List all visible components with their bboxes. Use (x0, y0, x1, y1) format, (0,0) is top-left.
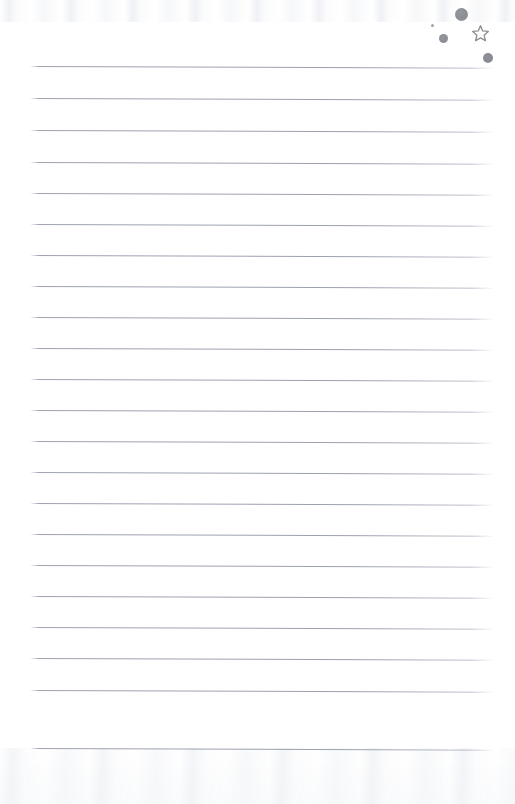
ruled-line (30, 379, 494, 382)
ruled-line (30, 162, 494, 165)
ruled-line (30, 596, 494, 599)
ruled-line (30, 658, 494, 661)
ruled-line (30, 98, 494, 101)
ruled-line (30, 66, 494, 69)
dot-large-icon (455, 8, 468, 21)
ruled-line (30, 193, 494, 196)
ruled-line (30, 224, 494, 227)
ruled-line (30, 317, 494, 320)
ruled-line (30, 534, 494, 537)
notebook-page (0, 0, 515, 804)
star-icon (472, 25, 489, 42)
paper-texture-bottom (0, 748, 515, 804)
dot-medium-icon (439, 34, 448, 43)
ruled-line (30, 130, 494, 133)
ruled-line (30, 286, 494, 289)
ruled-line (30, 255, 494, 258)
ruled-line (30, 410, 494, 413)
ruled-line (30, 441, 494, 444)
ruled-line (30, 472, 494, 475)
ruled-line (30, 565, 494, 568)
paper-texture-top (0, 0, 515, 22)
ruled-line (30, 690, 494, 693)
dot-tiny-icon (431, 24, 434, 27)
ruled-line (30, 627, 494, 630)
ruled-line (30, 503, 494, 506)
ruled-line (30, 748, 494, 751)
dot-small-icon (483, 53, 493, 63)
ruled-line (30, 348, 494, 351)
